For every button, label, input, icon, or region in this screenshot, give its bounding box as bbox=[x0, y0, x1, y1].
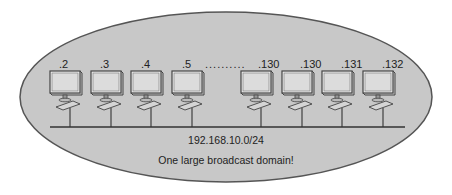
host-label: .130 bbox=[258, 58, 279, 70]
broadcast-domain-diagram: .2 .3 .4 .5 .130 .130 .131 .132 ........… bbox=[0, 0, 452, 195]
network-address: 192.168.10.0/24 bbox=[188, 134, 264, 146]
ellipsis: .......... bbox=[205, 58, 246, 70]
host-label: .130 bbox=[300, 58, 321, 70]
host-label: .4 bbox=[141, 58, 150, 70]
host-label: .2 bbox=[59, 58, 68, 70]
host-label: .5 bbox=[182, 58, 191, 70]
host-label: .3 bbox=[100, 58, 109, 70]
host-label: .131 bbox=[341, 58, 362, 70]
caption: One large broadcast domain! bbox=[158, 154, 293, 166]
host-label: .132 bbox=[382, 58, 403, 70]
